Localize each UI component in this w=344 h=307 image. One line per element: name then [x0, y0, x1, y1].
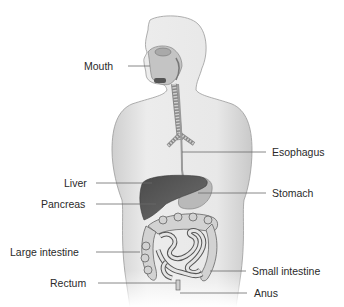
rectum-organ — [176, 280, 180, 290]
label-anus: Anus — [254, 287, 278, 299]
label-small-intestine: Small intestine — [252, 265, 320, 277]
label-stomach: Stomach — [272, 187, 313, 199]
digestive-system-diagram: Mouth Esophagus Liver Stomach Pancreas L… — [0, 0, 344, 307]
body-silhouette — [110, 16, 260, 307]
label-rectum: Rectum — [50, 277, 86, 289]
label-pancreas: Pancreas — [41, 198, 85, 210]
label-large-intestine: Large intestine — [10, 246, 79, 258]
label-esophagus: Esophagus — [272, 146, 325, 158]
label-mouth: Mouth — [84, 60, 113, 72]
label-liver: Liver — [64, 177, 87, 189]
